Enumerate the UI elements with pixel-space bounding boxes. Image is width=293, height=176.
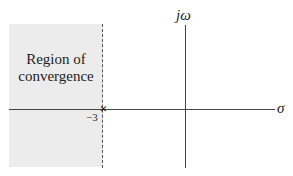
pole-value-label: −3 bbox=[86, 111, 98, 123]
real-axis bbox=[9, 109, 275, 110]
roc-label-line1: Region of bbox=[9, 51, 103, 68]
real-axis-label: σ bbox=[277, 100, 284, 117]
imaginary-axis-label: jω bbox=[176, 7, 191, 24]
roc-boundary-dashed-line bbox=[102, 24, 103, 168]
roc-label-line2: convergence bbox=[9, 68, 103, 85]
imaginary-axis bbox=[185, 25, 186, 168]
pole-marker-icon: × bbox=[98, 103, 109, 115]
region-of-convergence bbox=[9, 24, 103, 167]
